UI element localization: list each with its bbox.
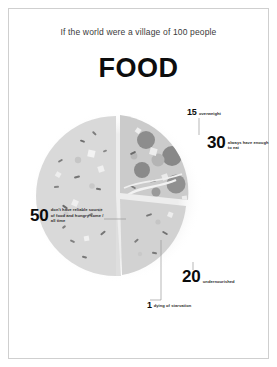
- callout-20-desc: undernourished: [203, 279, 235, 285]
- food-pie-chart: [0, 0, 277, 367]
- callout-1-value: 1: [147, 301, 152, 310]
- callout-30-desc: always have enough to eat: [228, 140, 270, 151]
- callout-50-desc: don't have reliable source of food and h…: [51, 207, 105, 224]
- callout-50: 50 don't have reliable source of food an…: [30, 207, 105, 224]
- callout-15-value: 15: [187, 108, 196, 117]
- callout-30: 30 always have enough to eat: [207, 134, 270, 151]
- callout-1-desc: dying of starvation: [154, 303, 192, 309]
- callout-1: 1 dying of starvation: [147, 301, 191, 310]
- pie-slice-50: [36, 116, 116, 276]
- callout-30-value: 30: [207, 134, 225, 151]
- callout-15-desc: overweight: [199, 111, 221, 117]
- infographic-poster: If the world were a village of 100 peopl…: [0, 0, 277, 367]
- callout-15: 15 overweight: [187, 108, 221, 117]
- callout-20-value: 20: [182, 268, 200, 285]
- callout-50-value: 50: [30, 207, 48, 224]
- callout-20: 20 undernourished: [182, 268, 235, 285]
